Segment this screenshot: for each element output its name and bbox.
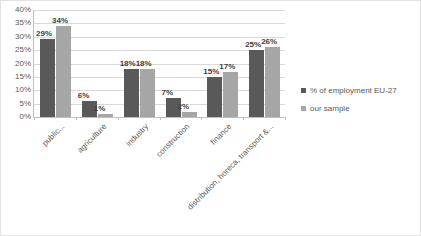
y-axis-tick-label: 20% — [1, 60, 31, 68]
bar-value-label: 17% — [219, 62, 235, 71]
y-axis-tick-label: 15% — [1, 73, 31, 81]
bar-value-label: 7% — [162, 88, 174, 97]
bar — [40, 39, 55, 117]
bar-group: 7%2% — [160, 10, 202, 117]
y-axis: 40%35%30%25%20%15%10%5%0% — [1, 10, 31, 118]
bar-value-label: 29% — [36, 29, 52, 38]
legend-item[interactable]: % of employment EU-27 — [301, 85, 419, 95]
bar — [223, 72, 238, 117]
legend-label: % of employment EU-27 — [310, 86, 397, 95]
bar-value-label: 34% — [52, 16, 68, 25]
legend-swatch-icon — [301, 88, 306, 93]
bar — [182, 112, 197, 117]
bar-group: 18%18% — [118, 10, 160, 117]
y-axis-tick-label: 30% — [1, 33, 31, 41]
y-axis-tick-label: 25% — [1, 46, 31, 54]
bar-group: 29%34% — [34, 10, 76, 117]
bar — [98, 114, 113, 117]
plot-area: 29%34%6%1%18%18%7%2%15%17%25%26% — [33, 10, 285, 118]
y-axis-tick-label: 5% — [1, 100, 31, 108]
bar — [124, 69, 139, 117]
x-axis-category-label: agriculture — [75, 122, 108, 155]
bar-value-label: 18% — [120, 59, 136, 68]
bar-group: 6%1% — [76, 10, 118, 117]
bar — [140, 69, 155, 117]
bar-value-label: 1% — [94, 104, 106, 113]
x-axis-tick — [285, 117, 286, 120]
bar-group: 15%17% — [201, 10, 243, 117]
bar — [56, 26, 71, 117]
bar-value-label: 18% — [136, 59, 152, 68]
bar-value-label: 2% — [178, 102, 190, 111]
y-axis-tick-label: 35% — [1, 19, 31, 27]
legend-label: our sample — [310, 104, 350, 113]
bar-value-label: 26% — [261, 37, 277, 46]
bar — [265, 47, 280, 117]
x-axis-category-labels: public...agricultureindustryconstruction… — [33, 118, 285, 228]
bar-chart: 40%35%30%25%20%15%10%5%0% 29%34%6%1%18%1… — [0, 0, 421, 236]
bar — [207, 77, 222, 117]
bar-value-label: 15% — [203, 67, 219, 76]
legend-item[interactable]: our sample — [301, 103, 419, 113]
legend-swatch-icon — [301, 106, 306, 111]
x-axis-category-label: public... — [40, 122, 66, 148]
y-axis-tick-label: 10% — [1, 86, 31, 94]
bar-group: 25%26% — [243, 10, 285, 117]
x-axis-category-label: industry — [124, 122, 150, 148]
y-axis-tick-label: 40% — [1, 6, 31, 14]
y-axis-tick-label: 0% — [1, 113, 31, 121]
x-axis-category-label: finance — [209, 122, 234, 147]
bar-value-label: 25% — [245, 40, 261, 49]
bar — [249, 50, 264, 117]
x-axis-category-label: distribution, horeca, transport &... — [186, 122, 276, 212]
bar-value-label: 6% — [78, 91, 90, 100]
x-axis-category-label: construction — [155, 122, 192, 159]
legend: % of employment EU-27our sample — [301, 85, 419, 121]
